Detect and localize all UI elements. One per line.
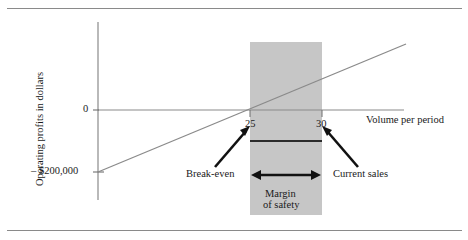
current-sales-label: Current sales: [333, 168, 388, 179]
margin-of-safety-label-line1: Margin: [265, 188, 296, 199]
break-even-arrow: [215, 126, 250, 167]
break-even-chart-figure: Operating profits in dollars 0 – $200,00…: [0, 0, 468, 240]
x-tick-label-25: 25: [245, 118, 256, 129]
x-axis-label: Volume per period: [366, 114, 444, 125]
y-tick-label-neg200k: – $200,000: [31, 165, 78, 176]
x-tick-label-30: 30: [316, 118, 327, 129]
margin-of-safety-label-line2: of safety: [263, 199, 299, 210]
break-even-label: Break-even: [186, 168, 234, 179]
y-tick-label-zero: 0: [83, 103, 88, 114]
current-sales-arrow: [322, 126, 358, 167]
